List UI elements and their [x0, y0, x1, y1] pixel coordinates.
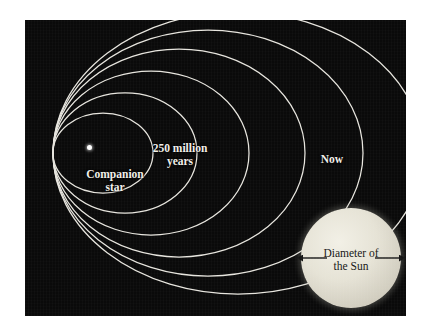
- orbit-ellipse-4: [53, 49, 305, 257]
- sun-diameter-arrow: [301, 208, 401, 308]
- orbit-ellipse-1: [53, 113, 153, 193]
- sky-panel: Companion star 250 million years Now: [25, 20, 406, 316]
- orbit-ellipse-3: [53, 71, 249, 235]
- astronomy-orbit-figure: Companion star 250 million years Now: [0, 0, 427, 335]
- orbit-ellipse-2: [53, 93, 197, 213]
- companion-star-marker: [87, 145, 92, 150]
